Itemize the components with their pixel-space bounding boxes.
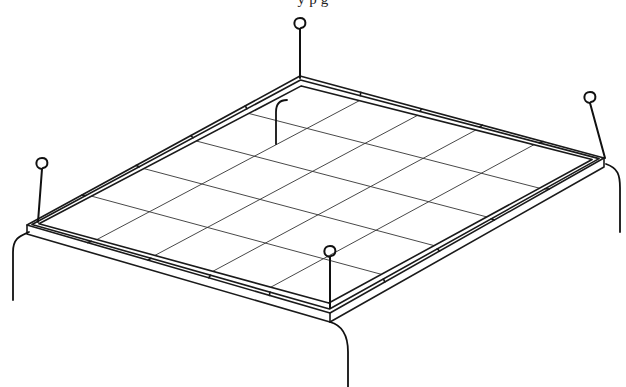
grid-line [97,101,360,240]
grid-line [91,196,381,274]
rail-tick [148,258,151,260]
hook-loop-icon [294,18,305,29]
table-edge-front [330,322,348,387]
rail-tick [88,241,92,242]
rail-tick [437,249,439,251]
frame-outer-edge [27,76,604,313]
table-edge-left [13,232,29,300]
frame-outline [27,76,604,322]
rail-tick [480,125,483,127]
hook-loop-icon [584,92,595,103]
grid-line [196,141,486,217]
rail-tick [383,279,384,282]
grid-line [249,113,540,188]
frame-rail [32,80,599,309]
hook-pins [36,18,605,308]
grid-line [144,169,434,246]
rail-tick [360,92,361,95]
left-pin [36,158,47,222]
grid-frame-diagram [0,0,626,387]
rail-tick [269,292,270,295]
pin-stem [38,169,42,222]
rail-tick [245,106,246,109]
rail-tick [191,136,193,138]
frame-inner-edge [39,86,592,303]
grid-line [271,145,534,287]
rail-tick [491,219,494,220]
pin-stem [590,103,605,158]
rail-tick [136,165,139,166]
rail-tick [539,142,543,143]
back-pin [294,18,305,78]
hook-loop-icon [36,158,47,169]
table-edge-right [606,164,620,232]
right-pin [584,92,605,158]
